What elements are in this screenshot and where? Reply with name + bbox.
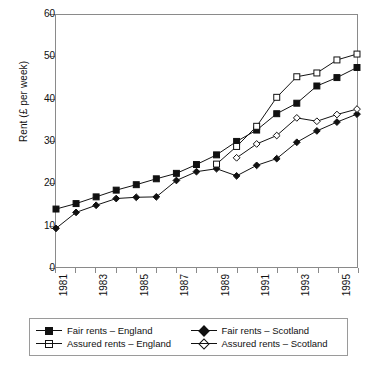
x-axis-tick bbox=[318, 268, 319, 273]
filled-diamond-marker bbox=[193, 168, 200, 175]
x-axis-tick bbox=[136, 268, 137, 273]
filled-diamond-icon bbox=[191, 326, 217, 336]
filled-square-marker bbox=[214, 152, 220, 158]
filled-square-marker bbox=[193, 162, 199, 168]
x-axis-tick bbox=[358, 268, 359, 273]
x-axis-tick-label: 1981 bbox=[59, 274, 69, 296]
x-axis-tick bbox=[237, 268, 238, 273]
filled-square-marker bbox=[173, 170, 179, 176]
series-filled-square bbox=[53, 65, 360, 212]
y-axis-tick-label: 30 bbox=[15, 136, 55, 146]
y-axis-tick-label: 0 bbox=[15, 263, 55, 273]
filled-diamond-marker bbox=[334, 119, 341, 126]
x-axis-tick bbox=[277, 268, 278, 273]
open-square-marker bbox=[354, 51, 360, 57]
open-diamond-marker bbox=[334, 111, 341, 118]
x-axis-tick bbox=[55, 268, 56, 273]
rent-line-chart: Rent (£ per week) 0102030405060 19811983… bbox=[0, 0, 377, 365]
x-axis-tick bbox=[95, 268, 96, 273]
open-square-marker bbox=[234, 143, 240, 149]
legend-item[interactable]: Assured rents – England bbox=[36, 338, 187, 349]
open-square-marker bbox=[274, 94, 280, 100]
open-diamond-marker bbox=[233, 154, 240, 161]
x-axis-tick-label: 1985 bbox=[140, 274, 150, 296]
legend-item[interactable]: Assured rents – Scotland bbox=[191, 338, 342, 349]
x-axis-tick bbox=[217, 268, 218, 273]
series-canvas bbox=[56, 15, 357, 267]
chart-legend: Fair rents – EnglandFair rents – Scotlan… bbox=[29, 318, 348, 356]
plot-area bbox=[55, 14, 358, 268]
x-axis-tick bbox=[196, 268, 197, 273]
filled-square-marker bbox=[53, 206, 59, 212]
x-axis-tick-label: 1989 bbox=[221, 274, 231, 296]
x-axis-tick bbox=[297, 268, 298, 273]
open-square-marker bbox=[314, 70, 320, 76]
filled-square-marker bbox=[354, 65, 360, 71]
y-axis-tick-label: 10 bbox=[15, 221, 55, 231]
open-square-marker bbox=[214, 161, 220, 167]
open-diamond-marker bbox=[313, 118, 320, 125]
x-axis-tick bbox=[338, 268, 339, 273]
filled-diamond-marker bbox=[133, 194, 140, 201]
legend-marker-shape bbox=[45, 340, 53, 348]
x-axis-tick bbox=[257, 268, 258, 273]
filled-square-marker bbox=[153, 176, 159, 182]
series-line bbox=[56, 114, 357, 228]
filled-diamond-marker bbox=[113, 195, 120, 202]
x-axis-tick bbox=[176, 268, 177, 273]
filled-square-marker bbox=[294, 100, 300, 106]
open-square-marker bbox=[334, 57, 340, 63]
filled-square-marker bbox=[113, 187, 119, 193]
legend-item[interactable]: Fair rents – England bbox=[36, 325, 187, 336]
legend-item-label: Assured rents – Scotland bbox=[222, 338, 328, 349]
filled-square-icon bbox=[36, 326, 62, 336]
legend-item-label: Fair rents – Scotland bbox=[222, 325, 310, 336]
legend-marker-shape bbox=[45, 327, 53, 335]
open-diamond-icon bbox=[191, 339, 217, 349]
y-axis-tick-label: 50 bbox=[15, 51, 55, 61]
open-square-marker bbox=[254, 123, 260, 129]
filled-square-marker bbox=[73, 201, 79, 207]
legend-item-label: Assured rents – England bbox=[67, 338, 171, 349]
x-axis-tick-label: 1993 bbox=[301, 274, 311, 296]
filled-square-marker bbox=[334, 75, 340, 81]
series-line bbox=[56, 68, 357, 210]
open-square-marker bbox=[294, 74, 300, 80]
filled-square-marker bbox=[314, 83, 320, 89]
filled-square-marker bbox=[93, 194, 99, 200]
filled-diamond-marker bbox=[253, 162, 260, 169]
open-diamond-marker bbox=[354, 106, 361, 113]
filled-diamond-marker bbox=[233, 172, 240, 179]
filled-square-marker bbox=[274, 111, 280, 117]
legend-marker-shape bbox=[198, 325, 209, 336]
y-axis-tick-label: 60 bbox=[15, 9, 55, 19]
x-axis-tick-label: 1987 bbox=[180, 274, 190, 296]
x-axis-tick bbox=[116, 268, 117, 273]
open-square-icon bbox=[36, 339, 62, 349]
x-axis-tick-label: 1991 bbox=[261, 274, 271, 296]
y-axis-tick-label: 20 bbox=[15, 178, 55, 188]
filled-diamond-marker bbox=[93, 202, 100, 209]
x-axis-tick bbox=[156, 268, 157, 273]
series-open-square bbox=[214, 51, 360, 167]
filled-diamond-marker bbox=[313, 128, 320, 135]
filled-square-marker bbox=[133, 182, 139, 188]
x-axis-tick-label: 1983 bbox=[99, 274, 109, 296]
x-axis-tick-label: 1995 bbox=[342, 274, 352, 296]
legend-item[interactable]: Fair rents – Scotland bbox=[191, 325, 342, 336]
legend-marker-shape bbox=[198, 338, 209, 349]
legend-item-label: Fair rents – England bbox=[67, 325, 153, 336]
y-axis-tick-label: 40 bbox=[15, 94, 55, 104]
series-open-diamond bbox=[233, 106, 360, 161]
x-axis-tick bbox=[75, 268, 76, 273]
open-diamond-marker bbox=[253, 141, 260, 148]
series-filled-diamond bbox=[53, 111, 361, 232]
